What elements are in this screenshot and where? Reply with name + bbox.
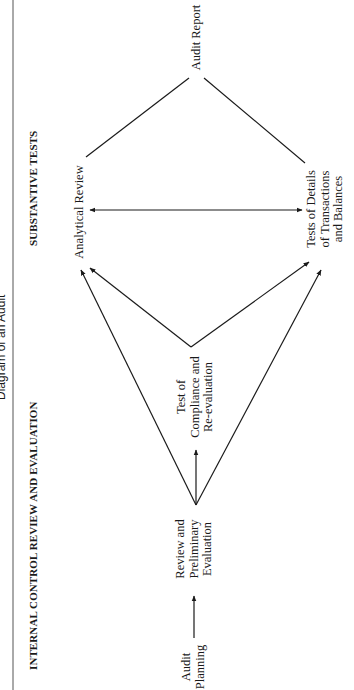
node-tests-of-details: Tests of Details of Transactions and Bal… — [305, 161, 346, 257]
node-tests-of-details-line2: of Transactions — [319, 161, 333, 257]
node-test-of-compliance-line3: Re-evaluation — [202, 351, 216, 443]
node-review-preliminary-line1: Review and — [174, 508, 188, 590]
node-review-preliminary-line2: Preliminary — [188, 508, 202, 590]
node-audit-planning-line1: Audit — [180, 639, 194, 690]
node-test-of-compliance: Test of Compliance and Re-evaluation — [175, 351, 216, 443]
node-tests-of-details-line3: and Balances — [332, 161, 346, 257]
node-test-of-compliance-line1: Test of — [175, 351, 189, 443]
node-review-preliminary: Review and Preliminary Evaluation — [174, 508, 215, 590]
node-audit-report: Audit Report — [190, 0, 204, 75]
header-internal-control: INTERNAL CONTROL REVIEW AND EVALUATION — [27, 402, 39, 670]
arrow-compliance-to-details — [191, 262, 309, 347]
diagram-title: Diagram of an Audit — [0, 295, 8, 400]
node-audit-report-label: Audit Report — [190, 0, 204, 75]
node-analytical-review: Analytical Review — [73, 158, 87, 266]
node-test-of-compliance-line2: Compliance and — [189, 351, 203, 443]
node-analytical-review-label: Analytical Review — [73, 158, 87, 266]
line-analytical-to-report — [86, 78, 189, 157]
arrow-compliance-to-analytical — [90, 268, 191, 347]
line-details-to-report — [204, 78, 305, 163]
audit-diagram: Diagram of an Audit INTERNAL CONTROL REV… — [0, 0, 354, 690]
node-review-preliminary-line3: Evaluation — [201, 508, 215, 590]
node-tests-of-details-line1: Tests of Details — [305, 161, 319, 257]
header-substantive-tests: SUBSTANTIVE TESTS — [27, 131, 39, 246]
node-audit-planning-line2: Planning — [194, 639, 208, 690]
node-audit-planning: Audit Planning — [180, 639, 207, 690]
